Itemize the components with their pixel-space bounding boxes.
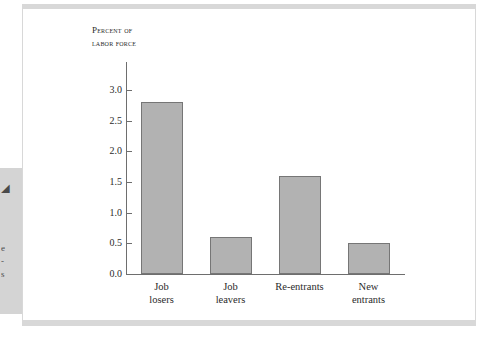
y-axis-tick-label-text: 1.5	[92, 177, 122, 187]
bar-chart: Percent of labor force 0.00.51.01.52.02.…	[0, 0, 480, 338]
y-axis-tick-label: 3.0	[88, 85, 122, 95]
y-axis-tick-label: 2.5	[88, 116, 122, 126]
y-axis-tick	[127, 274, 132, 275]
y-axis-tick-label: 1.5	[88, 177, 122, 187]
y-axis-tick-label-text: 2.5	[92, 116, 122, 126]
y-axis-tick	[127, 182, 132, 183]
y-axis-tick-label-text: 2.0	[92, 146, 122, 156]
y-axis-tick	[127, 151, 132, 152]
y-axis-tick-label-text: 1.0	[92, 208, 122, 218]
figure-page: ◢ e - s Percent of labor force 0.00.51.0…	[0, 0, 480, 338]
bar	[348, 243, 390, 274]
y-axis-title: Percent of labor force	[92, 24, 136, 49]
y-axis-tick-label: 2.0	[88, 146, 122, 156]
y-axis-tick-label-text: 3.0	[92, 85, 122, 95]
y-axis-tick-label: 0.0	[88, 269, 122, 279]
y-axis-tick	[127, 90, 132, 91]
y-axis-tick	[127, 243, 132, 244]
y-axis-tick-label-text: 0.5	[92, 238, 122, 248]
bar	[141, 102, 183, 274]
bar	[210, 237, 252, 274]
bar	[279, 176, 321, 274]
y-axis-tick	[127, 213, 132, 214]
x-axis-line	[126, 274, 405, 275]
y-axis-tick	[127, 121, 132, 122]
y-axis-tick-label: 1.0	[88, 208, 122, 218]
y-axis-tick-label-text: 0.0	[92, 269, 122, 279]
x-axis-category-label: New entrants	[324, 281, 413, 306]
y-axis-tick-label: 0.5	[88, 238, 122, 248]
